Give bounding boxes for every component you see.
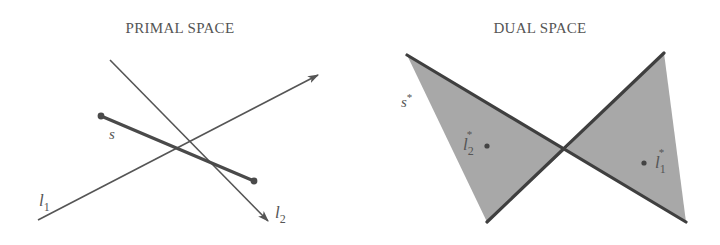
segment-s (101, 116, 254, 181)
dual-point-l2 (484, 143, 489, 148)
primal-space: s l1 l2 (38, 60, 318, 226)
line-l2 (110, 60, 268, 221)
label-s-star: s* (401, 91, 412, 110)
dual-wedge-right (565, 53, 686, 222)
label-s: s (109, 126, 115, 142)
dual-wedge-left (407, 55, 565, 222)
segment-endpoint-left (98, 113, 105, 120)
duality-diagram: s l1 l2 s* l2* l1* (0, 0, 720, 245)
dual-point-l1 (641, 160, 646, 165)
dual-space: s* l2* l1* (401, 53, 686, 222)
label-l2: l2 (275, 203, 286, 226)
segment-endpoint-right (251, 178, 258, 185)
label-l1: l1 (39, 191, 50, 214)
